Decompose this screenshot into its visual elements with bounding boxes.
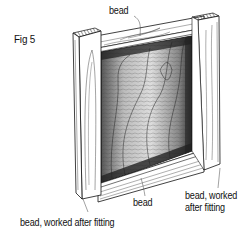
label-bead-worked-right-line2: after fitting xyxy=(185,201,225,213)
figure-5: Fig 5 bead bead bead, worked after fitti… xyxy=(0,0,252,237)
label-bead-worked-right-line1: bead, worked xyxy=(185,189,237,201)
figure-label: Fig 5 xyxy=(14,33,35,45)
right-stile xyxy=(192,13,220,170)
label-bead-worked-left: bead, worked after fitting xyxy=(20,216,114,228)
left-stile xyxy=(73,28,101,199)
label-bead-top: bead xyxy=(109,4,128,16)
leader-bead-worked-left xyxy=(83,199,88,212)
leader-bead-worked-right xyxy=(218,168,220,188)
label-bead-bottom: bead xyxy=(133,196,152,208)
